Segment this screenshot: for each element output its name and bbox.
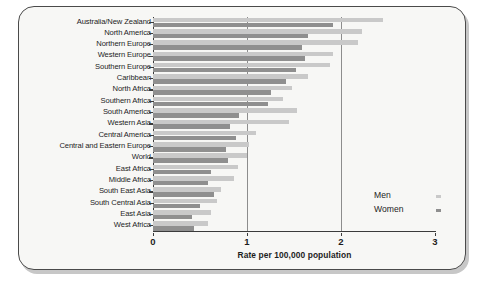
bar-row: Australia/New Zealand: [19, 17, 467, 28]
bar-row: North America: [19, 28, 467, 39]
bar-women: [153, 136, 236, 141]
x-tick-label: 0: [138, 236, 168, 247]
category-label: World: [0, 152, 151, 163]
bar-women: [153, 113, 239, 118]
bar-women: [153, 158, 228, 163]
bar-row: World: [19, 153, 467, 164]
category-label: East Africa: [0, 164, 151, 175]
bar-men: [153, 97, 283, 102]
bar-women: [153, 102, 268, 107]
bar-women: [153, 23, 333, 28]
bar-row: Southern Africa: [19, 96, 467, 107]
category-label: West Africa: [0, 220, 151, 231]
bar-women: [153, 215, 192, 220]
bar-men: [153, 40, 358, 45]
bar-row: Caribbean: [19, 74, 467, 85]
bar-men: [153, 142, 249, 147]
category-label: Southern Africa: [0, 96, 151, 107]
bar-row: Central and Eastern Europe: [19, 141, 467, 152]
category-label: Western Asia: [0, 118, 151, 129]
bar-men: [153, 176, 234, 181]
chart-legend: Men Women: [374, 190, 460, 218]
x-tick-label: 3: [420, 236, 450, 247]
bar-women: [153, 124, 230, 129]
x-tick-label: 1: [232, 236, 262, 247]
category-label: Caribbean: [0, 73, 151, 84]
x-axis-ticks: 0123: [19, 233, 467, 249]
category-label: Central America: [0, 130, 151, 141]
bar-men: [153, 187, 221, 192]
bar-row: South America: [19, 108, 467, 119]
bar-men: [153, 120, 289, 125]
bar-men: [153, 29, 362, 34]
bar-row: Western Asia: [19, 119, 467, 130]
bar-women: [153, 226, 194, 231]
bar-women: [153, 45, 302, 50]
legend-label-men: Men: [374, 190, 391, 200]
bar-men: [153, 108, 297, 113]
bar-women: [153, 181, 208, 186]
bar-row: Central America: [19, 130, 467, 141]
bar-men: [153, 221, 208, 226]
bar-men: [153, 153, 247, 158]
bar-row: West Africa: [19, 221, 467, 232]
category-label: South East Asia: [0, 186, 151, 197]
bar-men: [153, 86, 292, 91]
bar-row: North Africa: [19, 85, 467, 96]
bar-women: [153, 204, 200, 209]
legend-label-women: Women: [374, 204, 403, 214]
bar-men: [153, 63, 330, 68]
category-label: North America: [0, 28, 151, 39]
legend-item-women: Women: [374, 204, 460, 218]
bar-men: [153, 52, 333, 57]
category-label: South America: [0, 107, 151, 118]
bar-women: [153, 34, 308, 39]
bar-men: [153, 74, 308, 79]
category-label: Western Europe: [0, 50, 151, 61]
bar-men: [153, 165, 238, 170]
bar-women: [153, 79, 286, 84]
x-axis-title: Rate per 100,000 population: [153, 250, 436, 260]
bar-men: [153, 131, 256, 136]
category-label: South Central Asia: [0, 198, 151, 209]
bar-women: [153, 90, 271, 95]
x-tick-label: 2: [326, 236, 356, 247]
bar-men: [153, 199, 217, 204]
bar-row: Northern Europe: [19, 40, 467, 51]
bar-row: Southern Europe: [19, 62, 467, 73]
category-label: Middle Africa: [0, 175, 151, 186]
bar-women: [153, 68, 296, 73]
bar-women: [153, 170, 211, 175]
chart-frame: Australia/New ZealandNorth AmericaNorthe…: [18, 6, 466, 270]
legend-swatch-men: [436, 195, 441, 198]
bar-row: Western Europe: [19, 51, 467, 62]
legend-swatch-women: [436, 209, 441, 212]
category-label: Northern Europe: [0, 39, 151, 50]
category-label: East Asia: [0, 209, 151, 220]
bar-men: [153, 210, 211, 215]
bar-women: [153, 192, 214, 197]
bar-men: [153, 18, 383, 23]
bar-women: [153, 56, 305, 61]
category-label: Australia/New Zealand: [0, 17, 151, 28]
category-label: North Africa: [0, 84, 151, 95]
bar-row: East Africa: [19, 164, 467, 175]
bar-women: [153, 147, 226, 152]
bar-row: Middle Africa: [19, 175, 467, 186]
legend-item-men: Men: [374, 190, 460, 204]
category-label: Southern Europe: [0, 62, 151, 73]
category-label: Central and Eastern Europe: [0, 141, 151, 152]
